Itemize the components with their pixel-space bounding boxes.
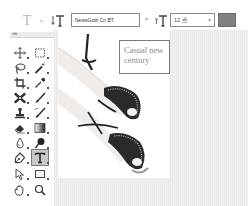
blur-tool[interactable] <box>12 135 28 150</box>
submenu-indicator <box>27 87 29 89</box>
rectangle-shape-icon <box>34 168 46 180</box>
text-color-swatch[interactable] <box>218 13 236 27</box>
text-layer-box[interactable]: Casual new century <box>119 40 170 74</box>
zoom-tool[interactable] <box>32 182 48 197</box>
eyedropper-icon <box>34 77 46 89</box>
collapse-panel-icon[interactable]: «« <box>12 30 17 36</box>
tools-panel-header[interactable]: «« <box>10 32 54 38</box>
type-tool[interactable] <box>31 149 49 166</box>
brush-icon <box>34 92 46 104</box>
stamp-tool[interactable] <box>12 105 28 120</box>
eyedropper-tool[interactable] <box>32 75 48 90</box>
submenu-indicator <box>27 162 29 164</box>
submenu-indicator <box>27 132 29 134</box>
submenu-indicator <box>47 87 49 89</box>
submenu-indicator <box>27 194 29 196</box>
submenu-indicator <box>27 57 29 59</box>
lasso-tool[interactable] <box>12 60 28 75</box>
font-size-select[interactable]: 12 点 ▾ <box>170 13 215 27</box>
history-brush-icon <box>34 107 46 119</box>
toggle-text-orientation-button[interactable] <box>50 12 66 30</box>
eraser-tool[interactable] <box>12 120 28 135</box>
submenu-indicator <box>47 178 49 180</box>
tool-preset-picker[interactable]: T ▾ <box>14 12 40 30</box>
zoom-icon <box>34 184 46 196</box>
path-select-tool[interactable] <box>12 166 28 181</box>
hand-tool[interactable] <box>12 182 28 197</box>
eraser-icon <box>14 122 26 134</box>
dodge-tool[interactable] <box>32 135 48 150</box>
quick-select-tool[interactable] <box>32 60 48 75</box>
submenu-indicator <box>47 162 49 164</box>
text-orientation-icon <box>51 14 65 28</box>
stamp-icon <box>14 107 26 119</box>
shape-tool[interactable] <box>32 166 48 181</box>
text-layer-content[interactable]: Casual new century <box>120 41 169 65</box>
type-icon <box>34 152 46 164</box>
gradient-icon <box>34 122 46 134</box>
submenu-indicator <box>47 72 49 74</box>
font-style-dropdown-arrow[interactable]: ▾ <box>145 15 148 22</box>
chevron-down-icon: ▾ <box>208 14 211 26</box>
pen-tool[interactable] <box>12 150 28 165</box>
tools-panel: «« <box>10 32 54 206</box>
lasso-icon <box>14 62 26 74</box>
submenu-indicator <box>27 117 29 119</box>
rect-marquee-icon <box>34 47 46 59</box>
submenu-indicator <box>27 178 29 180</box>
submenu-indicator <box>27 102 29 104</box>
blur-icon <box>14 137 26 149</box>
hand-icon <box>14 184 26 196</box>
submenu-indicator <box>47 117 49 119</box>
history-brush-tool[interactable] <box>32 105 48 120</box>
move-tool[interactable] <box>12 45 28 60</box>
healing-tool[interactable] <box>12 90 28 105</box>
brush-tool[interactable] <box>32 90 48 105</box>
submenu-indicator <box>47 57 49 59</box>
submenu-indicator <box>27 72 29 74</box>
options-bar: T ▾ NewsGoth Cn BT ▾ 12 点 ▾ <box>0 0 248 34</box>
font-family-select[interactable]: NewsGoth Cn BT <box>71 13 140 27</box>
bandage-icon <box>14 92 26 104</box>
chevron-down-icon: ▾ <box>40 17 43 24</box>
dodge-icon <box>34 137 46 149</box>
font-size-value: 12 点 <box>174 17 188 23</box>
magic-wand-icon <box>34 62 46 74</box>
pen-icon <box>14 152 26 164</box>
gradient-tool[interactable] <box>32 120 48 135</box>
submenu-indicator <box>27 147 29 149</box>
move-icon <box>14 47 26 59</box>
marquee-tool[interactable] <box>32 45 48 60</box>
crop-icon <box>14 77 26 89</box>
arrow-select-icon <box>14 168 26 180</box>
crop-tool[interactable] <box>12 75 28 90</box>
type-tool-icon: T <box>23 13 32 29</box>
font-size-icon <box>154 12 168 30</box>
submenu-indicator <box>47 132 49 134</box>
submenu-indicator <box>47 102 49 104</box>
